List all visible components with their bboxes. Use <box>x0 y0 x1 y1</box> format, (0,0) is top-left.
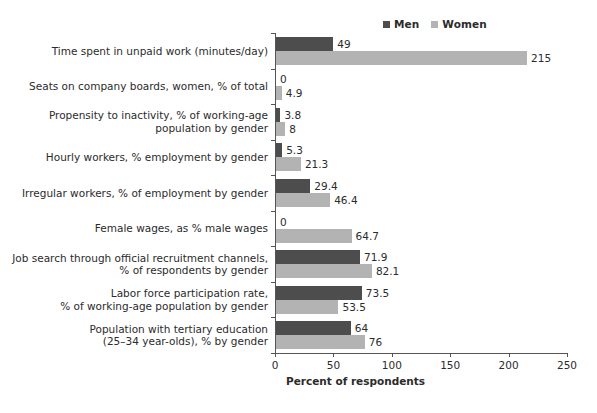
bar-row: 46.4 <box>276 193 568 207</box>
bar-row: 4.9 <box>276 86 568 100</box>
x-axis-tick-label: 150 <box>440 359 460 371</box>
bar-row: 82.1 <box>276 264 568 278</box>
value-axis-line <box>275 353 568 354</box>
category-tick <box>271 317 275 318</box>
x-axis-tick <box>450 353 451 357</box>
bar-row: 0 <box>276 72 568 86</box>
category-tick <box>271 175 275 176</box>
category-label: Seats on company boards, women, % of tot… <box>29 80 268 93</box>
category-tick <box>271 33 275 34</box>
bar-value-label: 64 <box>351 322 368 334</box>
chart-legend: Men Women <box>383 17 487 31</box>
bar-women[interactable] <box>276 51 527 65</box>
bar-group: 04.9 <box>276 72 568 100</box>
category-tick <box>271 140 275 141</box>
x-axis-tick-label: 100 <box>382 359 402 371</box>
bar-value-label: 5.3 <box>282 144 303 156</box>
category-label: Irregular workers, % of employment by ge… <box>22 187 268 200</box>
bar-value-label: 76 <box>365 336 382 348</box>
bar-value-label: 0 <box>276 73 287 85</box>
bar-value-label: 73.5 <box>362 287 389 299</box>
bar-row: 71.9 <box>276 250 568 264</box>
bar-women[interactable] <box>276 229 352 243</box>
bar-value-label: 29.4 <box>310 180 337 192</box>
bar-row: 0 <box>276 215 568 229</box>
bar-women[interactable] <box>276 157 301 171</box>
bar-row: 64 <box>276 321 568 335</box>
bar-row: 3.8 <box>276 108 568 122</box>
legend-entry-men[interactable]: Men <box>383 19 419 30</box>
x-axis-tick <box>567 353 568 357</box>
x-axis-tick <box>333 353 334 357</box>
legend-label-women: Women <box>442 19 486 30</box>
bar-women[interactable] <box>276 300 338 314</box>
bar-women[interactable] <box>276 335 365 349</box>
category-label: Hourly workers, % employment by gender <box>46 151 268 164</box>
category-label: Labor force participation rate, % of wor… <box>60 287 268 312</box>
bar-row: 53.5 <box>276 300 568 314</box>
category-tick <box>271 282 275 283</box>
x-axis-tick-label: 250 <box>557 359 577 371</box>
category-label: Propensity to inactivity, % of working-a… <box>49 109 268 134</box>
x-axis-tick <box>275 353 276 357</box>
bar-women[interactable] <box>276 193 330 207</box>
bar-row: 8 <box>276 122 568 136</box>
bar-men[interactable] <box>276 321 351 335</box>
category-tick <box>271 69 275 70</box>
legend-swatch-men <box>383 21 390 28</box>
bar-group: 5.321.3 <box>276 143 568 171</box>
bar-group: 49215 <box>276 37 568 65</box>
bar-row: 5.3 <box>276 143 568 157</box>
bar-value-label: 64.7 <box>352 230 379 242</box>
bar-women[interactable] <box>276 264 372 278</box>
bar-group: 73.553.5 <box>276 286 568 314</box>
x-axis-tick <box>392 353 393 357</box>
x-axis-tick-label: 200 <box>499 359 519 371</box>
bar-row: 76 <box>276 335 568 349</box>
bar-group: 3.88 <box>276 108 568 136</box>
bar-value-label: 82.1 <box>372 265 399 277</box>
bar-group: 064.7 <box>276 215 568 243</box>
bar-group: 29.446.4 <box>276 179 568 207</box>
bar-row: 29.4 <box>276 179 568 193</box>
bar-women[interactable] <box>276 122 285 136</box>
x-axis-tick <box>509 353 510 357</box>
bar-row: 73.5 <box>276 286 568 300</box>
x-axis-tick-label: 0 <box>272 359 279 371</box>
plot-area: 4921504.93.885.321.329.446.4064.771.982.… <box>275 33 568 353</box>
category-label: Job search through official recruitment … <box>12 252 268 277</box>
bar-chart: Men Women 4921504.93.885.321.329.446.406… <box>0 0 597 413</box>
legend-swatch-women <box>431 21 438 28</box>
bar-value-label: 3.8 <box>280 109 301 121</box>
bar-value-label: 53.5 <box>338 301 365 313</box>
bar-men[interactable] <box>276 286 362 300</box>
category-label: Time spent in unpaid work (minutes/day) <box>52 45 268 58</box>
bar-men[interactable] <box>276 179 310 193</box>
legend-label-men: Men <box>394 19 419 30</box>
bar-value-label: 46.4 <box>330 194 357 206</box>
bar-value-label: 215 <box>527 52 551 64</box>
x-axis-title-text: Percent of respondents <box>286 375 425 387</box>
category-tick <box>271 246 275 247</box>
bar-value-label: 4.9 <box>282 87 303 99</box>
category-label: Female wages, as % male wages <box>95 222 268 235</box>
bar-row: 21.3 <box>276 157 568 171</box>
bar-row: 64.7 <box>276 229 568 243</box>
bar-value-label: 49 <box>333 38 350 50</box>
bar-value-label: 0 <box>276 216 287 228</box>
bar-value-label: 8 <box>285 123 296 135</box>
bar-men[interactable] <box>276 250 360 264</box>
x-axis-tick-label: 50 <box>327 359 340 371</box>
x-axis-title: Percent of respondents <box>0 375 597 387</box>
category-tick <box>271 211 275 212</box>
bar-row: 49 <box>276 37 568 51</box>
category-label: Population with tertiary education (25–3… <box>90 323 268 348</box>
category-tick <box>271 104 275 105</box>
bar-group: 71.982.1 <box>276 250 568 278</box>
bar-group: 6476 <box>276 321 568 349</box>
legend-entry-women[interactable]: Women <box>431 19 486 30</box>
bar-value-label: 21.3 <box>301 158 328 170</box>
bar-row: 215 <box>276 51 568 65</box>
bar-value-label: 71.9 <box>360 251 387 263</box>
bar-men[interactable] <box>276 37 333 51</box>
